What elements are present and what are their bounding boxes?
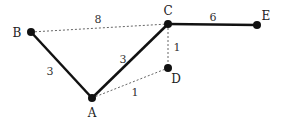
edge-weight-B-A: 3: [47, 65, 54, 78]
edge-A-D: [92, 68, 168, 98]
graph-diagram: 811336ABCDE: [0, 0, 283, 122]
edge-B-A: [31, 32, 92, 98]
node-B: [27, 28, 35, 36]
node-E: [253, 21, 261, 29]
node-label-C: C: [163, 4, 172, 18]
edge-A-C: [92, 24, 168, 98]
node-label-E: E: [262, 9, 271, 23]
edge-weight-C-E: 6: [210, 11, 217, 24]
edge-weight-A-D: 1: [132, 86, 139, 99]
edge-weight-A-C: 3: [120, 53, 127, 66]
edge-C-E: [168, 24, 257, 25]
node-label-A: A: [87, 106, 97, 120]
edge-weight-C-D: 1: [174, 41, 181, 54]
node-label-D: D: [171, 72, 181, 86]
edge-weight-B-C: 8: [95, 13, 102, 26]
graph-canvas: 811336ABCDE: [0, 0, 283, 122]
node-C: [164, 20, 172, 28]
node-label-B: B: [13, 26, 22, 40]
node-A: [88, 94, 96, 102]
node-D: [164, 64, 172, 72]
